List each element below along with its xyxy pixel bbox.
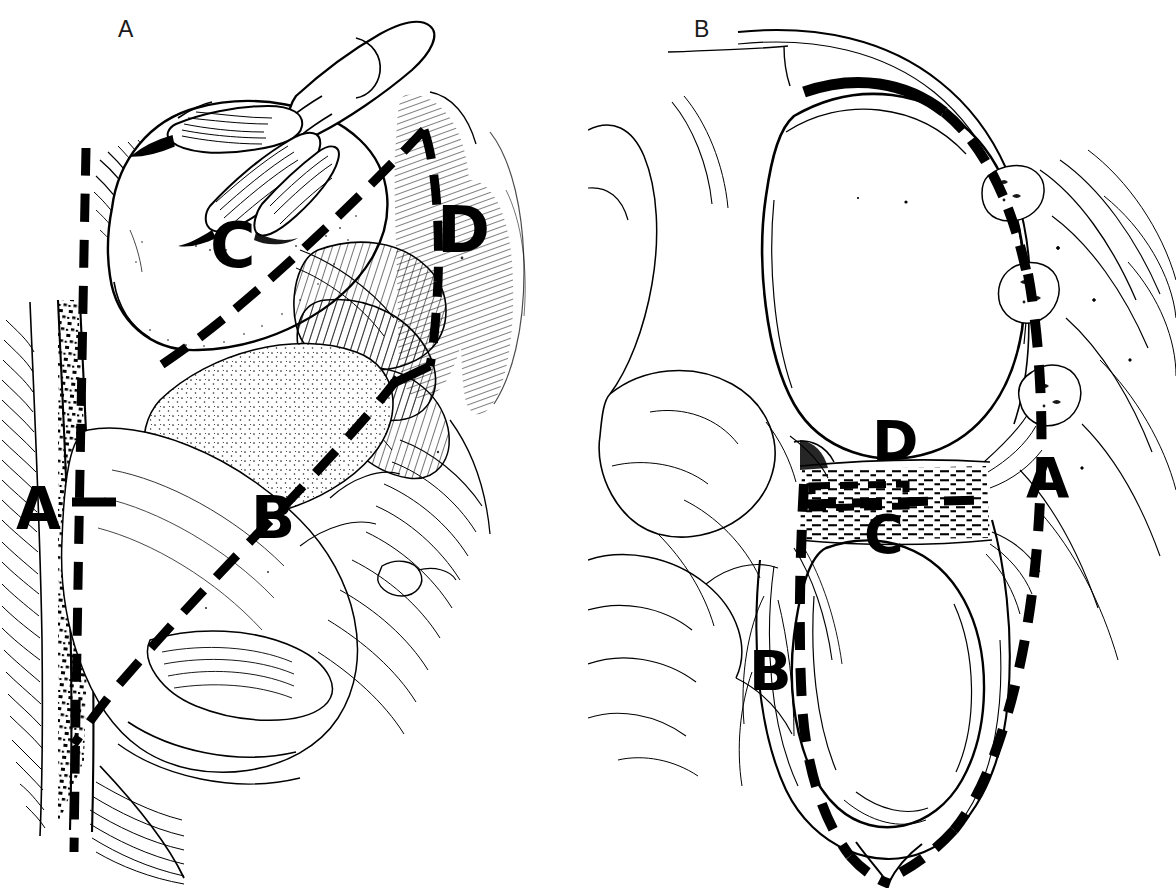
marker-b-b: B — [749, 643, 792, 699]
panel-a-drawing — [0, 0, 588, 888]
marker-a-b: B — [251, 489, 295, 547]
marker-b-d: D — [872, 413, 918, 469]
marker-b-c: C — [864, 508, 904, 562]
panel-b-letter: B — [694, 16, 710, 43]
marker-a-a: A — [16, 480, 61, 538]
marker-a-d: D — [437, 198, 490, 262]
marker-a-c: C — [210, 215, 256, 277]
figure-root: A B C D A B D A C B — [0, 0, 1176, 888]
panel-a — [0, 0, 588, 888]
marker-b-a: A — [1026, 450, 1069, 506]
panel-a-letter: A — [118, 16, 134, 43]
